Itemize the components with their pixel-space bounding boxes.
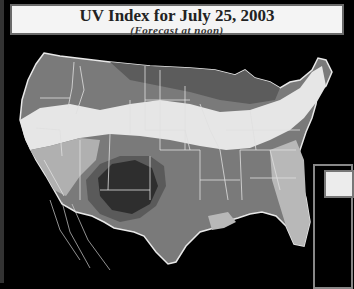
legend-box	[324, 170, 354, 198]
map-title: UV Index for July 25, 2003	[12, 7, 342, 25]
title-banner: UV Index for July 25, 2003 (Forecast at …	[10, 4, 344, 35]
us-uv-map	[0, 36, 348, 283]
zone-southeast-light	[270, 140, 310, 246]
map-subtitle: (Forecast at noon)	[12, 25, 342, 36]
